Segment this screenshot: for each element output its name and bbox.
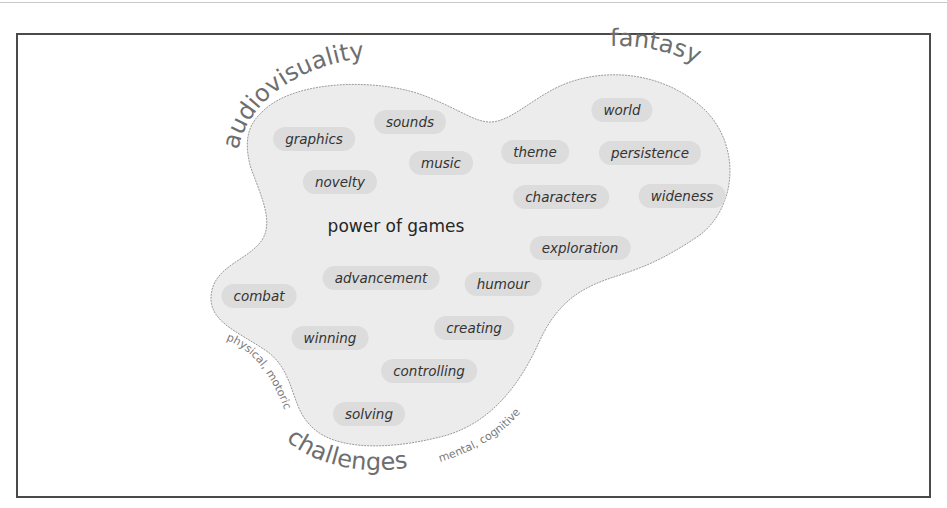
concept-pill-advancement: advancement [323, 266, 440, 290]
diagram-canvas: audiovisuality fantasy challenges physic… [0, 0, 947, 508]
concept-pill-wideness: wideness [639, 184, 726, 208]
concept-pill-creating: creating [434, 316, 514, 340]
concept-pill-characters: characters [513, 185, 609, 209]
concept-pill-persistence: persistence [599, 141, 701, 165]
concept-pill-humour: humour [465, 272, 542, 296]
concept-pill-novelty: novelty [303, 170, 377, 194]
concept-pill-theme: theme [501, 140, 569, 164]
category-fantasy: fantasy [610, 24, 706, 70]
concept-pill-winning: winning [292, 326, 369, 350]
center-label: power of games [328, 216, 465, 236]
concept-pill-controlling: controlling [381, 359, 477, 383]
concept-pill-combat: combat [222, 284, 297, 308]
concept-pill-exploration: exploration [530, 236, 631, 260]
concept-pill-graphics: graphics [273, 127, 355, 151]
concept-pill-music: music [409, 151, 473, 175]
concept-pill-sounds: sounds [374, 110, 446, 134]
concept-pill-world: world [591, 98, 652, 122]
concept-pill-solving: solving [333, 402, 405, 426]
